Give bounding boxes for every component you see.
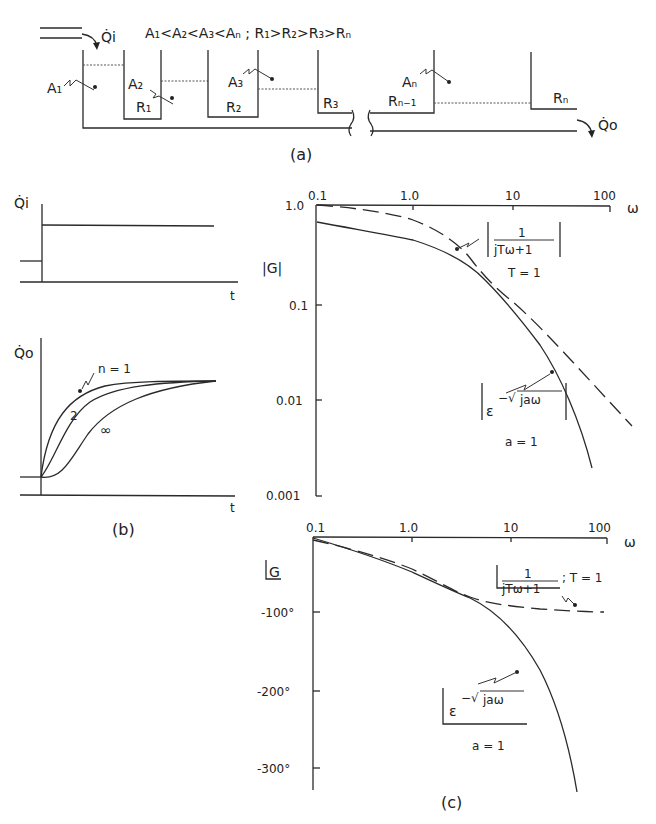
magnitude-plot: 0.1 1.0 10 100 ω 1.0 0.1 0.01 0.001 |G| … — [262, 189, 639, 503]
y-tick-label: -200° — [257, 685, 290, 699]
input-xlabel: t — [230, 289, 235, 303]
curve-first-order-phase — [313, 540, 604, 612]
caption-a: (a) — [290, 145, 312, 164]
pointer-dot — [78, 389, 82, 393]
inflow-arrowhead-icon — [93, 42, 100, 50]
exponent: −√ — [461, 691, 479, 705]
exponent-arg: jaω — [482, 693, 504, 707]
x-tick-label: 10 — [503, 521, 518, 535]
break-mark-right — [368, 110, 373, 136]
pointer-dot — [93, 85, 97, 89]
exponent-arg: jaω — [519, 393, 541, 407]
label-n1: n = 1 — [98, 362, 131, 376]
label-R1: R₁ — [136, 99, 151, 115]
phase-plot: 0.1 1.0 10 100 ω G -100° -200° -300° 1 j… — [257, 521, 636, 812]
figure-canvas: Q̇i A₁<A₂<A₃<Aₙ ; R₁>R₂>R₃>Rₙ Q̇o A₁ A₂ … — [0, 0, 656, 824]
x-tick-label: 0.1 — [306, 521, 325, 535]
input-step-plot: Q̇i t — [14, 195, 238, 303]
label-first-order-magnitude: 1 jTω+1 — [488, 222, 560, 257]
denominator: jTω+1 — [493, 243, 532, 257]
pointer-dot — [170, 96, 174, 100]
curve-n2 — [41, 381, 216, 477]
x-axis-label: ω — [624, 534, 636, 550]
y-tick-label: -300° — [257, 762, 290, 776]
label-A1: A₁ — [47, 80, 62, 96]
label-R3: R₃ — [323, 95, 338, 111]
caption-b: (b) — [112, 520, 135, 539]
leader-n1 — [82, 373, 94, 389]
y-tick-label: 0.01 — [276, 394, 303, 408]
x-tick-label: 0.1 — [308, 189, 327, 203]
y-tick-label: 0.001 — [266, 489, 300, 503]
label-T1: T = 1 — [507, 266, 541, 280]
output-ylabel: Q̇o — [14, 345, 34, 361]
y-tick-label: 1.0 — [285, 199, 304, 213]
leader-exp-phase — [478, 672, 517, 684]
angle-label-G: G — [269, 564, 280, 580]
pointer-dot — [270, 77, 274, 81]
label-An: Aₙ — [402, 74, 417, 90]
epsilon: ε — [449, 703, 457, 719]
pointer-dot — [447, 80, 451, 84]
y-tick-label: 0.1 — [289, 299, 308, 313]
relation-text: A₁<A₂<A₃<Aₙ ; R₁>R₂>R₃>Rₙ — [145, 25, 351, 41]
curve-exp-phase — [313, 538, 577, 792]
x-axis — [20, 495, 235, 496]
x-tick-label: 1.0 — [400, 189, 419, 203]
input-ylabel: Q̇i — [14, 195, 29, 211]
top-axis — [316, 205, 610, 206]
x-tick-label: 100 — [593, 189, 616, 203]
param: ; T = 1 — [562, 571, 603, 585]
top-axis — [313, 537, 607, 538]
outflow-arrowhead-icon — [588, 130, 595, 138]
epsilon: ε — [486, 403, 494, 419]
x-tick-label: 1.0 — [399, 521, 418, 535]
x-tick-label: 100 — [588, 521, 611, 535]
label-first-order-phase: 1 jTω+1 ; T = 1 — [497, 565, 603, 596]
label-ninf: ∞ — [100, 422, 112, 438]
output-response-plot: Q̇o n = 1 2 ∞ t (b) — [14, 338, 235, 539]
tank-diagram: Q̇i A₁<A₂<A₃<Aₙ ; R₁>R₂>R₃>Rₙ Q̇o A₁ A₂ … — [40, 25, 618, 164]
label-Rn: Rₙ — [553, 90, 568, 106]
x-axis-label: ω — [627, 200, 639, 216]
pointer-dot — [573, 603, 577, 607]
y-tick-label: -100° — [261, 606, 294, 620]
label-exp-magnitude: ε −√ jaω — [482, 383, 566, 420]
step-level — [42, 225, 214, 226]
break-mark-left — [349, 110, 354, 136]
label-exp-phase: ε −√ jaω — [443, 688, 527, 724]
leader-first-order-phase — [562, 596, 575, 605]
leader-first-order — [457, 239, 479, 249]
curve-first-order-magnitude — [317, 205, 632, 426]
outflow-label: Q̇o — [598, 117, 618, 133]
output-xlabel: t — [230, 501, 235, 515]
label-a1: a = 1 — [472, 739, 505, 753]
exponent: −√ — [498, 391, 516, 405]
label-A3: A₃ — [228, 74, 243, 90]
label-Rn-1: Rₙ₋₁ — [388, 93, 416, 109]
label-R2: R₂ — [226, 99, 241, 115]
y-axis-label: G — [266, 560, 281, 580]
curve-exp-magnitude — [317, 222, 592, 468]
label-A2: A₂ — [128, 76, 143, 92]
numerator: 1 — [518, 226, 526, 240]
label-a1: a = 1 — [505, 435, 538, 449]
numerator: 1 — [524, 567, 532, 581]
denominator: jTω+1 — [501, 582, 540, 596]
pointer-dot — [550, 370, 554, 374]
inflow-label: Q̇i — [101, 29, 116, 45]
label-n2: 2 — [70, 409, 78, 423]
x-tick-label: 10 — [505, 189, 520, 203]
caption-c: (c) — [441, 793, 462, 812]
y-axis-label: |G| — [262, 260, 282, 277]
leader-A1 — [64, 80, 94, 90]
